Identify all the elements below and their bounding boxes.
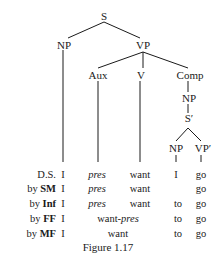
vp: go bbox=[196, 228, 207, 239]
aux: pres bbox=[88, 198, 106, 209]
node-NP: NP bbox=[57, 40, 71, 51]
subject: I bbox=[61, 213, 65, 224]
vp: go bbox=[196, 213, 207, 224]
comp-np: I bbox=[174, 169, 178, 180]
row-label: by SM bbox=[0, 183, 56, 194]
node-Comp: Comp bbox=[177, 70, 204, 81]
node-S: S bbox=[101, 11, 107, 22]
subject: I bbox=[61, 228, 65, 239]
vp: go bbox=[196, 198, 207, 209]
comp-to: to bbox=[174, 228, 182, 239]
node-Aux: Aux bbox=[89, 70, 108, 81]
node-S-bar: S′ bbox=[185, 113, 194, 124]
figure-caption: Figure 1.17 bbox=[83, 241, 134, 253]
merged-verb: want bbox=[108, 228, 128, 239]
verb: want bbox=[130, 183, 150, 194]
node-low-NP: NP bbox=[169, 143, 183, 154]
subject: I bbox=[61, 169, 65, 180]
verb: want bbox=[130, 169, 150, 180]
merged-verb: want-pres bbox=[97, 213, 139, 224]
node-V: V bbox=[137, 70, 145, 81]
row-label: by Inf bbox=[0, 198, 56, 209]
node-Comp-NP: NP bbox=[182, 93, 196, 104]
row-label: D.S. bbox=[0, 169, 56, 180]
subject: I bbox=[61, 183, 65, 194]
node-low-VP: VP′ bbox=[195, 143, 211, 154]
comp-to: to bbox=[174, 198, 182, 209]
vp: go bbox=[196, 183, 207, 194]
verb: want bbox=[130, 198, 150, 209]
subject: I bbox=[61, 198, 65, 209]
aux: pres bbox=[88, 169, 106, 180]
aux: pres bbox=[88, 183, 106, 194]
row-label: by MF bbox=[0, 228, 56, 239]
vp: go bbox=[196, 169, 207, 180]
node-VP: VP bbox=[136, 40, 150, 51]
row-label: by FF bbox=[0, 213, 56, 224]
comp-to: to bbox=[174, 213, 182, 224]
